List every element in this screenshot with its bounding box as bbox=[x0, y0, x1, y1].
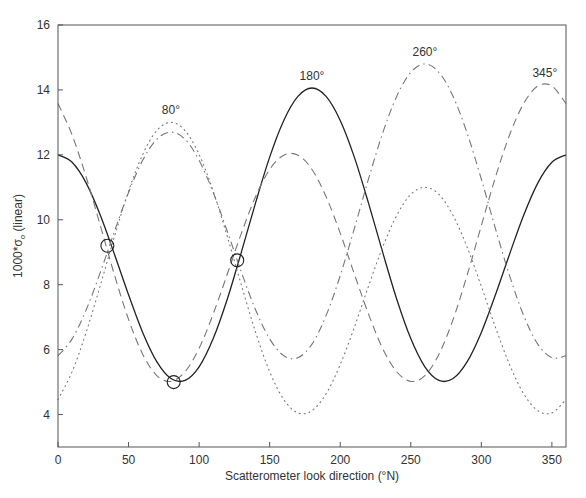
y-axis-title: 1000*σo (linear) bbox=[11, 194, 27, 278]
x-tick-label: 250 bbox=[401, 453, 421, 467]
y-tick-label: 14 bbox=[37, 83, 51, 97]
y-axis: 46810121416 bbox=[37, 18, 63, 422]
y-axis-title-tail: (linear) bbox=[11, 194, 25, 235]
y-tick-label: 6 bbox=[43, 343, 50, 357]
x-axis: 050100150200250300350 bbox=[55, 442, 563, 467]
y-tick-label: 4 bbox=[43, 408, 50, 422]
series-layer bbox=[58, 64, 566, 414]
y-tick-label: 8 bbox=[43, 278, 50, 292]
y-tick-label: 10 bbox=[37, 213, 51, 227]
series-line-dashdot bbox=[58, 64, 566, 359]
chart: 050100150200250300350 46810121416 180°80… bbox=[0, 0, 586, 498]
series-line-solid bbox=[58, 88, 566, 382]
peak-label: 80° bbox=[162, 103, 180, 117]
y-tick-label: 16 bbox=[37, 18, 51, 32]
x-tick-label: 100 bbox=[189, 453, 209, 467]
y-tick-label: 12 bbox=[37, 148, 51, 162]
x-tick-label: 150 bbox=[260, 453, 280, 467]
series-line-dashed bbox=[58, 84, 566, 382]
x-axis-title: Scatterometer look direction (°N) bbox=[225, 469, 399, 483]
x-tick-label: 50 bbox=[122, 453, 136, 467]
peak-label: 260° bbox=[412, 45, 437, 59]
peak-labels: 180°80°260°345° bbox=[162, 45, 558, 117]
x-tick-label: 200 bbox=[330, 453, 350, 467]
x-tick-label: 300 bbox=[471, 453, 491, 467]
y-axis-title-main: 1000*σ bbox=[11, 239, 25, 278]
x-tick-label: 0 bbox=[55, 453, 62, 467]
peak-label: 345° bbox=[532, 66, 557, 80]
peak-label: 180° bbox=[300, 69, 325, 83]
series-line-dotted bbox=[58, 122, 566, 413]
x-tick-label: 350 bbox=[542, 453, 562, 467]
